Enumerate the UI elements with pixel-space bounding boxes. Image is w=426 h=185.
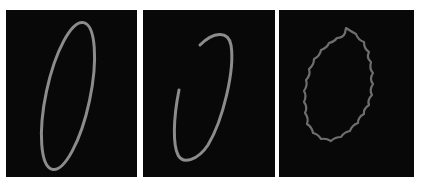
panel-closed-ellipse <box>6 10 137 177</box>
wavy-ellipse-contour-icon <box>279 10 414 177</box>
panel-wavy-ellipse <box>279 10 414 177</box>
open-arc-contour-icon <box>143 10 275 177</box>
ellipse-contour-icon <box>6 10 137 177</box>
panel-open-arc <box>143 10 275 177</box>
